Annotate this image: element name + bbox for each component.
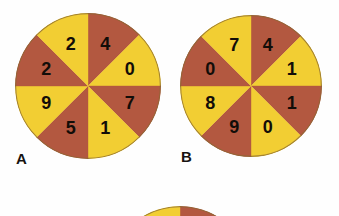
sector-value: 9 xyxy=(41,93,51,113)
sector-value: 1 xyxy=(287,93,297,113)
sector-value: 7 xyxy=(125,93,135,113)
sector-value: 4 xyxy=(100,34,110,54)
spinner-wheel-partial[interactable] xyxy=(108,206,252,216)
spinner-figure: 40715922A41109807B xyxy=(0,0,339,216)
sector-value: 9 xyxy=(229,117,239,137)
sector-value: 0 xyxy=(205,59,215,79)
sector-value: 0 xyxy=(263,117,273,137)
sector-value: 1 xyxy=(100,118,110,138)
sector-value: 8 xyxy=(205,93,215,113)
spinner-wheel-a[interactable]: 40715922 xyxy=(15,13,161,159)
spinner-caption-a: A xyxy=(16,151,27,166)
sector-value: 4 xyxy=(263,35,273,55)
sector-value: 0 xyxy=(125,59,135,79)
sector-value: 1 xyxy=(287,59,297,79)
sector-value: 7 xyxy=(229,35,239,55)
sector-value: 2 xyxy=(41,59,51,79)
sector-value: 2 xyxy=(66,34,76,54)
sector-value: 5 xyxy=(66,118,76,138)
spinner-caption-b: B xyxy=(181,149,192,164)
spinner-wheel-b[interactable]: 41109807 xyxy=(180,15,322,157)
